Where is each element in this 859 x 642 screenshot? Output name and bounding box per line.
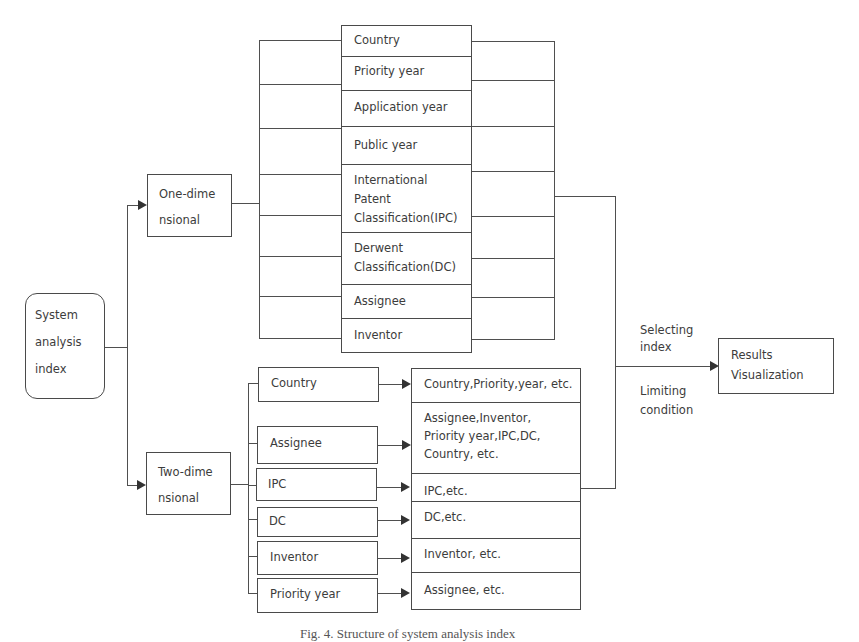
pair-connector <box>378 593 402 594</box>
two-dim-out-connector <box>231 484 249 485</box>
bracket-line <box>259 215 342 216</box>
target-label: IPC,etc. <box>424 482 468 500</box>
bracket-line <box>259 40 342 41</box>
target-label-line: Country, etc. <box>424 445 499 463</box>
results-label-line-1: Results <box>731 345 773 365</box>
one-dim-item-country: Country <box>341 25 472 57</box>
item-label: Country <box>354 33 400 47</box>
trunk-line <box>127 205 128 486</box>
item-label: Priority year <box>354 64 424 78</box>
two-dim-merge-connector <box>581 488 616 489</box>
bracket-line <box>472 258 555 259</box>
bracket-line <box>472 41 555 42</box>
two-dim-label-line-2: nsional <box>158 489 199 508</box>
dimension-label: Priority year <box>270 585 340 604</box>
one-dim-merge-connector <box>554 196 616 197</box>
one-dim-label-line-2: nsional <box>159 211 200 230</box>
item-label-line: Derwent <box>354 239 471 258</box>
item-label: Application year <box>354 100 448 114</box>
two-dim-label-line-1: Two-dime <box>158 463 213 482</box>
two-dim-left-bracket <box>248 383 249 593</box>
arrow-icon <box>402 440 411 450</box>
item-label: Public year <box>354 138 417 152</box>
item-label-line: International <box>354 171 471 190</box>
item-label: Inventor <box>354 328 402 342</box>
one-dim-item-assignee: Assignee <box>341 284 472 319</box>
dimension-label: Country <box>271 374 317 393</box>
one-dim-right-bracket <box>554 41 555 340</box>
item-label: Assignee <box>354 294 406 308</box>
target-label: DC,etc. <box>424 508 466 527</box>
merge-trunk-line <box>615 196 616 489</box>
pair-connector <box>378 520 402 521</box>
item-label-line: Classification(IPC) <box>354 209 471 228</box>
one-dim-item-ipc: International Patent Classification(IPC) <box>341 164 472 233</box>
bracket-line <box>259 296 342 297</box>
one-dim-item-priority-year: Priority year <box>341 56 472 91</box>
arrow-icon <box>401 482 410 492</box>
target-label: Country,Priority,year, etc. <box>424 375 572 394</box>
bracket-line <box>259 174 342 175</box>
selecting-index-label-line-2: index <box>640 339 671 356</box>
limiting-condition-label-line-1: Limiting <box>640 383 686 400</box>
arrow-icon <box>402 379 411 389</box>
bracket-line <box>472 80 555 81</box>
one-dim-out-connector <box>232 203 259 204</box>
limiting-condition-label-line-2: condition <box>640 402 693 419</box>
one-dim-item-dc: Derwent Classification(DC) <box>341 232 472 285</box>
selecting-index-label-line-1: Selecting <box>640 322 693 339</box>
to-results-connector <box>615 366 711 367</box>
pair-connector <box>378 445 403 446</box>
one-dim-item-public-year: Public year <box>341 126 472 165</box>
dimension-label: DC <box>269 512 286 531</box>
results-label-line-2: Visualization <box>731 365 804 385</box>
figure-caption: Fig. 4. Structure of system analysis ind… <box>300 626 515 642</box>
root-label-line-2: analysis <box>35 333 82 352</box>
bracket-line <box>472 297 555 298</box>
root-label-line-1: System <box>35 306 78 325</box>
arrow-icon <box>401 515 410 525</box>
target-label: Inventor, etc. <box>424 545 501 564</box>
dimension-label: Assignee <box>270 434 322 453</box>
target-label-line: Assignee,Inventor, <box>424 409 531 427</box>
arrow-icon <box>137 480 146 490</box>
pair-connector <box>379 384 403 385</box>
bracket-line <box>472 339 555 340</box>
one-dim-label-line-1: One-dime <box>159 185 215 204</box>
bracket-line <box>259 128 342 129</box>
item-label-line: Classification(DC) <box>354 258 471 277</box>
bracket-line <box>259 256 342 257</box>
target-label-line: Priority year,IPC,DC, <box>424 427 540 445</box>
item-label-line: Patent <box>354 190 471 209</box>
bracket-line <box>259 338 342 339</box>
bracket-line <box>472 171 555 172</box>
pair-connector <box>377 487 402 488</box>
one-dim-item-application-year: Application year <box>341 90 472 127</box>
bracket-line <box>259 84 342 85</box>
arrow-icon <box>138 200 147 210</box>
dimension-label: Inventor <box>270 548 318 567</box>
root-label-line-3: index <box>35 360 66 379</box>
target-label: Assignee, etc. <box>424 581 505 600</box>
one-dim-item-inventor: Inventor <box>341 318 472 353</box>
dimension-label: IPC <box>268 475 286 494</box>
arrow-icon <box>401 588 410 598</box>
bracket-line <box>472 216 555 217</box>
pair-connector <box>378 558 402 559</box>
bracket-line <box>472 126 555 127</box>
root-connector <box>105 347 128 348</box>
arrow-icon <box>401 553 410 563</box>
